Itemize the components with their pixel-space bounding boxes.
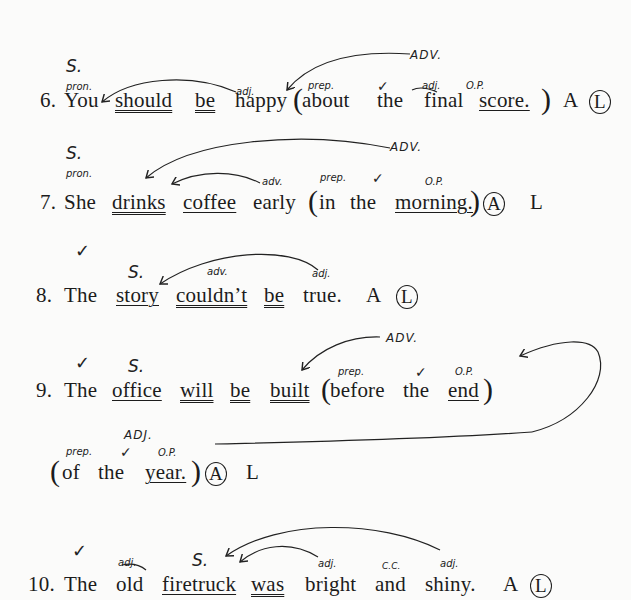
sentence-number: 9. [36, 378, 52, 403]
word: the [403, 378, 429, 403]
annotation-subject: S. [128, 262, 144, 282]
word: bright [305, 572, 356, 597]
word-subject: firetruck [162, 572, 236, 597]
annotation-adj: adj. [312, 268, 330, 279]
word: early [253, 190, 296, 215]
word: of [62, 460, 80, 485]
word-object: score. [479, 88, 530, 113]
word: The [64, 283, 97, 308]
annotation-op: O.P. [158, 447, 176, 458]
annotation-adj: adj. [318, 558, 336, 569]
choice-l-circled[interactable]: L [396, 285, 418, 309]
sentence-number: 8. [36, 283, 52, 308]
word-verb: was [251, 572, 284, 597]
open-paren: ( [50, 454, 60, 488]
word-verb: should [115, 88, 172, 113]
word: The [64, 378, 97, 403]
annotation-op: O.P. [455, 366, 473, 377]
word-verb: be [230, 378, 250, 403]
annotation-phrase: ADV. [386, 331, 418, 345]
choice-a[interactable]: A [366, 283, 381, 308]
word-verb: be [195, 88, 215, 113]
word: the [350, 190, 376, 215]
word: in [319, 190, 336, 215]
annotation-pron: pron. [66, 168, 92, 179]
word: shiny. [425, 572, 476, 597]
check-icon: ✓ [75, 352, 90, 373]
annotation-adv: adv. [262, 176, 283, 187]
annotation-op: O.P. [425, 176, 443, 187]
annotation-cc: C.C. [382, 561, 400, 571]
check-icon: ✓ [120, 444, 132, 460]
annotation-adv: adv. [207, 266, 228, 277]
word: the [98, 460, 124, 485]
choice-a-circled[interactable]: A [483, 192, 505, 216]
open-paren: ( [308, 184, 318, 218]
word-subject: story [116, 283, 159, 308]
choice-l-circled[interactable]: L [589, 90, 611, 114]
word-verb: couldn’t [176, 283, 247, 308]
word-object: year. [145, 460, 186, 485]
annotation-prep: prep. [66, 446, 92, 457]
annotation-subject: S. [66, 56, 82, 76]
annotation-adj: adj. [440, 558, 458, 569]
word-object: coffee [183, 190, 236, 215]
annotation-subject: S. [128, 356, 144, 376]
annotation-prep: prep. [338, 366, 364, 377]
word: The [64, 572, 97, 597]
word-object: end [448, 378, 479, 403]
annotation-prep: prep. [320, 172, 346, 183]
annotation-phrase: ADJ. [124, 428, 153, 442]
choice-a[interactable]: A [563, 88, 578, 113]
check-icon: ✓ [372, 170, 384, 186]
choice-l-circled[interactable]: L [530, 574, 552, 598]
annotation-adj: adj. [118, 557, 136, 568]
word: the [377, 88, 403, 113]
annotation-phrase: ADV. [390, 140, 422, 154]
word: old [116, 572, 143, 597]
choice-l[interactable]: L [246, 460, 259, 485]
close-paren: ) [191, 454, 201, 488]
sentence-number: 10. [28, 572, 55, 597]
word: She [64, 190, 96, 215]
word-verb: drinks [112, 190, 166, 215]
word: true. [303, 283, 342, 308]
word-verb: be [264, 283, 284, 308]
word-subject: office [112, 378, 162, 403]
word: about [302, 88, 350, 113]
word-verb: will [180, 378, 213, 403]
annotation-subject: S. [66, 143, 82, 163]
close-paren: ) [470, 184, 480, 218]
check-icon: ✓ [72, 540, 87, 561]
word: final [424, 88, 463, 113]
check-icon: ✓ [75, 240, 90, 261]
close-paren: ) [483, 372, 493, 406]
annotation-phrase: ADV. [410, 48, 442, 62]
close-paren: ) [541, 82, 551, 116]
sentence-number: 7. [40, 190, 56, 215]
choice-a-circled[interactable]: A [205, 462, 227, 486]
choice-a[interactable]: A [503, 572, 518, 597]
choice-l[interactable]: L [530, 190, 543, 215]
word-object: morning. [395, 190, 473, 215]
word: happy [235, 88, 287, 113]
annotation-subject: S. [192, 550, 208, 570]
word: You [64, 88, 99, 113]
word: and [375, 572, 406, 597]
word-verb: built [270, 378, 310, 403]
sentence-number: 6. [40, 88, 56, 113]
word: before [330, 378, 385, 403]
